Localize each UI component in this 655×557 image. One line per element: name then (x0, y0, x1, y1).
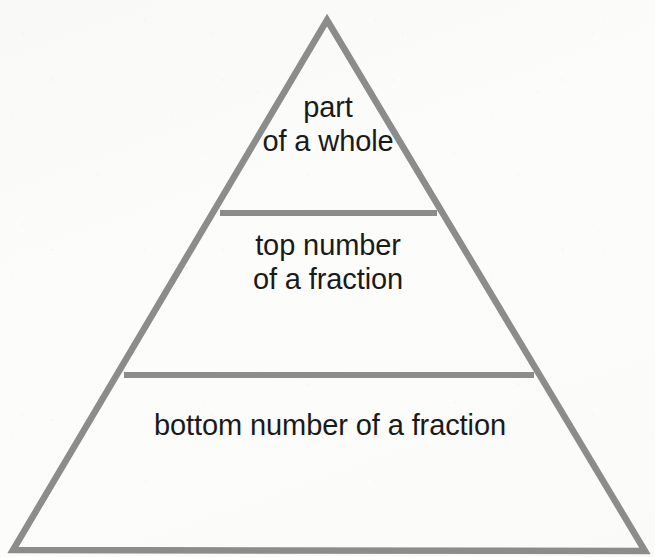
pyramid-diagram: part of a whole top number of a fraction… (0, 0, 655, 557)
tier-label-bottom: bottom number of a fraction (60, 408, 600, 442)
tier-label-top: part of a whole (180, 90, 476, 158)
tier-label-middle: top number of a fraction (150, 228, 506, 296)
